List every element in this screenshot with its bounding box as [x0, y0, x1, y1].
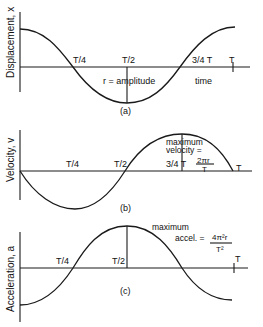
panel-c-max-label: maximum [152, 222, 189, 232]
panel-a-time-label: time [195, 76, 212, 86]
panel-b-velocity-eq-label: velocity = [166, 145, 202, 155]
shm-diagram: Displacement, x T/4 T/2 3/4 T T r = ampl… [0, 0, 263, 327]
panel-b-tick-three-quarter: 3/4 T [166, 159, 187, 169]
panel-a-caption: (a) [120, 106, 131, 116]
panel-a-tick-quarter: T/4 [73, 55, 86, 65]
panel-c-ylabel: Acceleration, a [5, 245, 16, 312]
panel-a-tick-half: T/2 [122, 55, 135, 65]
panel-b-formula-denominator: T [202, 165, 207, 174]
panel-b-tick-T: T [236, 163, 242, 173]
panel-c-caption: (c) [120, 286, 131, 296]
panel-b-ylabel: Velocity, v [5, 138, 16, 182]
panel-c-tick-T: T [235, 254, 241, 264]
panel-b-velocity: Velocity, v T/4 T/2 3/4 T T maximum velo… [5, 130, 252, 213]
panel-a-tick-T: T [229, 55, 235, 65]
panel-c-tick-quarter: T/4 [56, 256, 69, 266]
panel-c-tick-half: T/2 [112, 256, 125, 266]
panel-a-ylabel: Displacement, x [5, 7, 16, 78]
panel-c-accel-eq-label: accel. = [175, 233, 205, 243]
panel-b-tick-half: T/2 [114, 159, 127, 169]
panel-a-displacement: Displacement, x T/4 T/2 3/4 T T r = ampl… [5, 7, 250, 116]
panel-c-formula-numerator: 4π²r [212, 233, 228, 242]
panel-c-formula-denominator: T² [216, 245, 224, 254]
panel-a-tick-three-quarter: 3/4 T [192, 55, 213, 65]
panel-b-tick-quarter: T/4 [66, 159, 79, 169]
panel-c-acceleration: Acceleration, a T/4 T/2 T maximum accel.… [5, 222, 248, 322]
panel-a-amplitude-label: r = amplitude [103, 76, 155, 86]
panel-b-caption: (b) [120, 203, 131, 213]
